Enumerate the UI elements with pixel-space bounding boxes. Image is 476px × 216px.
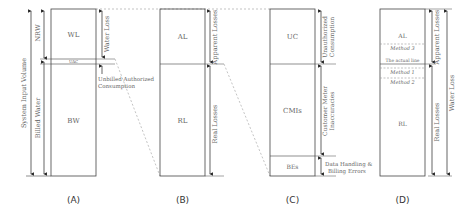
apparent-losses-label: Apparent Losses — [211, 10, 219, 66]
water-balance-diagram: WL UAC BW System Input Volume NRW Billed… — [0, 0, 476, 216]
uac-label: UAC — [69, 59, 78, 64]
panel-d: AL Method 3 The actual line Method 1 Met… — [380, 9, 456, 176]
bw-label: BW — [67, 117, 80, 125]
d-water-loss-label: Water Loss — [448, 75, 456, 112]
system-input-volume-label: System Input Volume — [20, 58, 28, 128]
d-rl-label: RL — [398, 120, 407, 127]
actual-line-label: The actual line — [386, 58, 420, 63]
uc-label: UC — [287, 33, 298, 41]
panel-c: UC CMIs BEs Unauthorized Consumption Cus… — [270, 9, 372, 176]
billed-water-label: Billed Water — [34, 97, 42, 139]
caption-d: (D) — [396, 195, 410, 205]
caption-a: (A) — [67, 195, 80, 205]
d-al-label: AL — [397, 32, 406, 39]
cmi-desc-2: Inaccuracies — [328, 92, 335, 131]
d-real-losses-label: Real Losses — [433, 103, 441, 142]
dh-desc-1: Data Handling & — [325, 161, 372, 168]
dh-desc-2: Billing Errors — [328, 168, 366, 175]
caption-c: (C) — [286, 195, 299, 205]
nrw-label: NRW — [34, 24, 42, 41]
al-label: AL — [177, 33, 188, 41]
method1-label: Method 1 — [389, 69, 414, 75]
panel-b: AL RL Apparent Losses Real Losses — [160, 9, 224, 176]
cmis-label: CMIs — [283, 107, 302, 115]
b-to-c-dashed-connector — [224, 64, 270, 176]
uc-desc-2: Consumption — [328, 17, 336, 57]
method3-label: Method 3 — [389, 45, 414, 51]
wl-label: WL — [68, 31, 80, 39]
method2-label: Method 2 — [389, 79, 414, 85]
unbilled-label-1: Unbilled Authorized — [98, 76, 155, 82]
bes-label: BEs — [287, 163, 299, 170]
caption-b: (B) — [176, 195, 189, 205]
uc-desc-1: Unauthorized — [321, 16, 328, 58]
cmi-desc-1: Customer Meter — [321, 86, 328, 136]
d-apparent-losses-label: Apparent Losses — [433, 10, 441, 66]
rl-label: RL — [178, 117, 188, 125]
panel-a: WL UAC BW System Input Volume NRW Billed… — [20, 9, 155, 176]
real-losses-label: Real Losses — [211, 105, 219, 144]
water-loss-label: Water Loss — [103, 16, 111, 53]
unbilled-label-2: Consumption — [98, 83, 135, 90]
